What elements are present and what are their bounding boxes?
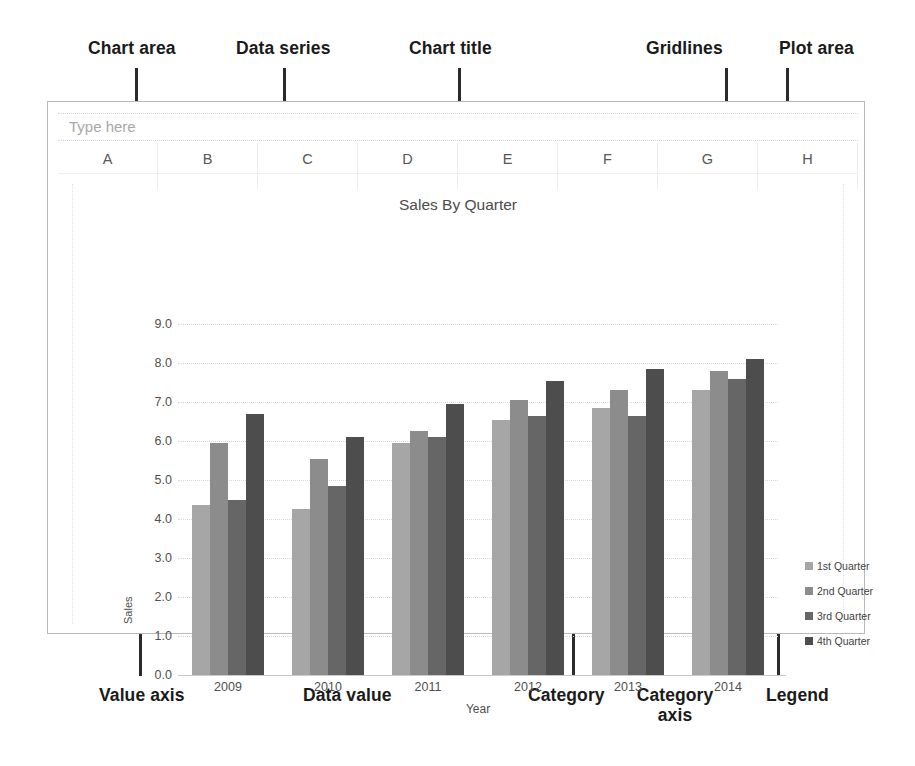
column-header-c[interactable]: C	[258, 143, 358, 189]
data-point-bar[interactable]	[446, 404, 464, 675]
column-header-d[interactable]: D	[358, 143, 458, 189]
category-group: 2014	[678, 324, 778, 675]
annotation-plot-area: Plot area	[779, 39, 854, 59]
data-point-bar[interactable]	[410, 431, 428, 675]
category-group: 2012	[478, 324, 578, 675]
annotation-chart-area: Chart area	[88, 39, 176, 59]
annotation-chart-title: Chart title	[409, 39, 492, 59]
value-axis-tick: 6.0	[132, 434, 172, 448]
column-header-f[interactable]: F	[558, 143, 658, 189]
category-axis-title: Year	[178, 702, 778, 716]
category-axis-tick: 2012	[478, 680, 578, 694]
value-axis-tick: 2.0	[132, 590, 172, 604]
legend-item-label: 1st Quarter	[817, 560, 870, 572]
screenshot-root: Chart area Data series Chart title Gridl…	[0, 0, 915, 766]
legend-item-label: 3rd Quarter	[817, 610, 871, 622]
legend-item[interactable]: 2nd Quarter	[805, 585, 885, 597]
value-axis-tick: 7.0	[132, 395, 172, 409]
value-axis-tick: 9.0	[132, 317, 172, 331]
data-point-bar[interactable]	[710, 371, 728, 675]
value-axis-tick: 8.0	[132, 356, 172, 370]
data-point-bar[interactable]	[746, 359, 764, 675]
data-point-bar[interactable]	[510, 400, 528, 675]
legend-swatch-icon	[805, 587, 813, 595]
annotation-value-axis: Value axis	[99, 686, 185, 706]
chart-area[interactable]: Sales By Quarter Sales 0.01.02.03.04.05.…	[72, 184, 844, 624]
category-axis-line	[178, 675, 786, 676]
legend-item[interactable]: 4th Quarter	[805, 635, 885, 647]
category-axis-tick: 2013	[578, 680, 678, 694]
data-point-bar[interactable]	[292, 509, 310, 675]
data-series-groups: 200920102011201220132014	[178, 324, 778, 675]
data-point-bar[interactable]	[692, 390, 710, 675]
legend-swatch-icon	[805, 612, 813, 620]
legend-item-label: 2nd Quarter	[817, 585, 873, 597]
column-header-e[interactable]: E	[458, 143, 558, 189]
legend-item[interactable]: 3rd Quarter	[805, 610, 885, 622]
value-axis-tick: 4.0	[132, 512, 172, 526]
spreadsheet-chart-frame: Type here ABCDEFGH Sales By Quarter Sale…	[47, 101, 865, 634]
legend-item[interactable]: 1st Quarter	[805, 560, 885, 572]
column-header-row: ABCDEFGH	[58, 143, 858, 189]
data-point-bar[interactable]	[346, 437, 364, 675]
data-point-bar[interactable]	[210, 443, 228, 675]
column-header-h[interactable]: H	[758, 143, 858, 189]
category-axis-tick: 2011	[378, 680, 478, 694]
column-header-a[interactable]: A	[58, 143, 158, 189]
data-point-bar[interactable]	[192, 505, 210, 675]
data-point-bar[interactable]	[628, 416, 646, 675]
data-point-bar[interactable]	[428, 437, 446, 675]
data-point-bar[interactable]	[228, 500, 246, 676]
value-axis-tick: 3.0	[132, 551, 172, 565]
type-here-placeholder: Type here	[69, 118, 136, 135]
category-group: 2013	[578, 324, 678, 675]
type-here-bar[interactable]: Type here	[58, 113, 858, 141]
data-point-bar[interactable]	[310, 459, 328, 675]
data-point-bar[interactable]	[246, 414, 264, 675]
data-point-bar[interactable]	[492, 420, 510, 675]
category-axis-tick: 2010	[278, 680, 378, 694]
data-point-bar[interactable]	[528, 416, 546, 675]
category-group: 2011	[378, 324, 478, 675]
category-axis-tick: 2014	[678, 680, 778, 694]
column-header-b[interactable]: B	[158, 143, 258, 189]
value-axis: Sales 0.01.02.03.04.05.06.07.08.09.0	[128, 324, 172, 675]
data-point-bar[interactable]	[546, 381, 564, 675]
legend-swatch-icon	[805, 637, 813, 645]
value-axis-tick: 5.0	[132, 473, 172, 487]
value-axis-tick: 1.0	[132, 629, 172, 643]
data-point-bar[interactable]	[328, 486, 346, 675]
data-point-bar[interactable]	[392, 443, 410, 675]
category-axis-tick: 2009	[178, 680, 278, 694]
chart-title: Sales By Quarter	[73, 196, 843, 214]
data-point-bar[interactable]	[728, 379, 746, 675]
category-group: 2009	[178, 324, 278, 675]
column-header-g[interactable]: G	[658, 143, 758, 189]
data-point-bar[interactable]	[592, 408, 610, 675]
data-point-bar[interactable]	[646, 369, 664, 675]
annotation-gridlines: Gridlines	[646, 39, 723, 59]
legend[interactable]: 1st Quarter2nd Quarter3rd Quarter4th Qua…	[805, 560, 885, 660]
data-point-bar[interactable]	[610, 390, 628, 675]
legend-item-label: 4th Quarter	[817, 635, 870, 647]
value-axis-tick: 0.0	[132, 668, 172, 682]
legend-swatch-icon	[805, 562, 813, 570]
annotation-data-series: Data series	[236, 39, 331, 59]
category-group: 2010	[278, 324, 378, 675]
